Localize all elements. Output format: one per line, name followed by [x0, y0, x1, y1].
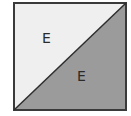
lower-region-label: E — [77, 69, 86, 83]
upper-region-label: E — [42, 31, 51, 45]
split-square-diagram — [0, 0, 131, 116]
